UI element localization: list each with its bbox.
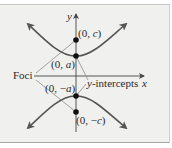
y-axis-label: y	[66, 10, 72, 22]
upper-branch-curve	[28, 24, 75, 56]
x-axis-label: x	[141, 77, 147, 89]
vertex-top-label: (0, a)	[51, 58, 75, 71]
hyperbola-diagram: y x (0, c) (0, a) (0, −a) (0, −c) Foci y…	[0, 0, 172, 148]
focus-top-label: (0, c)	[78, 27, 102, 40]
lower-branch-curve	[28, 96, 75, 128]
vertex-bottom-dot	[73, 93, 79, 99]
focus-bottom-label: (0, −c)	[76, 114, 106, 127]
foci-annotation: Foci	[13, 69, 33, 81]
y-intercepts-annotation: y-intercepts	[86, 77, 138, 89]
vertex-bottom-label: (0, −a)	[45, 82, 75, 95]
